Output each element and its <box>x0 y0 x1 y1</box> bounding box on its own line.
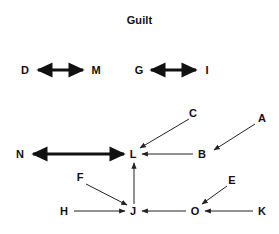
node-d[interactable]: D <box>21 65 29 76</box>
node-c[interactable]: C <box>189 108 197 119</box>
edge-f-j <box>86 184 127 205</box>
diagram-canvas: Guilt DMGICANLBFEHJOK <box>0 0 279 234</box>
node-a[interactable]: A <box>258 113 266 124</box>
node-g[interactable]: G <box>135 65 144 76</box>
edge-c-l <box>140 119 189 148</box>
node-o[interactable]: O <box>191 206 200 217</box>
node-f[interactable]: F <box>77 172 84 183</box>
edge-e-o <box>202 186 227 204</box>
node-e[interactable]: E <box>228 175 235 186</box>
edges-group <box>33 70 255 211</box>
node-n[interactable]: N <box>16 149 24 160</box>
node-j[interactable]: J <box>130 206 136 217</box>
node-h[interactable]: H <box>60 206 68 217</box>
node-i[interactable]: I <box>205 65 208 76</box>
node-b[interactable]: B <box>198 149 206 160</box>
edge-a-b <box>214 124 255 150</box>
node-l[interactable]: L <box>130 149 137 160</box>
edge-layer <box>0 0 279 234</box>
node-k[interactable]: K <box>258 206 266 217</box>
node-m[interactable]: M <box>91 65 100 76</box>
